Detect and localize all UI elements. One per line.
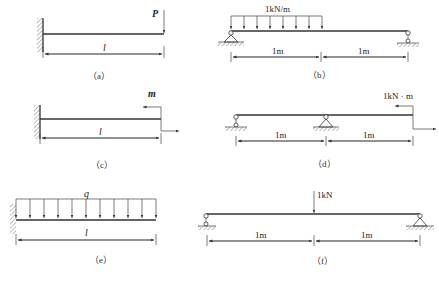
span-right-label: 1m bbox=[361, 230, 373, 240]
length-label: l bbox=[85, 227, 88, 238]
figure-c: m l （c） bbox=[34, 88, 179, 170]
load-label: 1kN bbox=[317, 190, 333, 200]
load-label: q bbox=[84, 188, 89, 199]
caption-d: （d） bbox=[313, 159, 336, 169]
figure-f: 1kN 1m 1m （f） bbox=[198, 190, 434, 266]
load-label: P bbox=[152, 8, 159, 19]
figure-d: 1kN · m 1m 1m （d） bbox=[225, 91, 436, 169]
figure-e: q l （e） bbox=[10, 188, 156, 265]
roller-support-icon bbox=[198, 214, 216, 230]
fixed-support-icon bbox=[37, 18, 43, 52]
caption-e: （e） bbox=[90, 255, 112, 265]
caption-b: （b） bbox=[308, 70, 331, 80]
roller-support-icon bbox=[225, 115, 247, 131]
pin-support-icon bbox=[218, 31, 244, 46]
pin-support-icon bbox=[313, 115, 339, 131]
moment-label: 1kN · m bbox=[383, 91, 413, 101]
caption-f: （f） bbox=[312, 256, 333, 266]
moment-arrow-icon bbox=[395, 106, 436, 129]
load-label: 1kN/m bbox=[265, 4, 290, 14]
caption-c: （c） bbox=[91, 160, 113, 170]
span-left-label: 1m bbox=[272, 46, 284, 56]
length-label: l bbox=[103, 42, 106, 53]
beam-diagrams: P l （a） 1kN/m bbox=[0, 0, 439, 284]
roller-support-icon bbox=[397, 31, 419, 47]
distributed-load-arrows-icon bbox=[16, 199, 156, 218]
caption-a: （a） bbox=[88, 71, 110, 81]
moment-label: m bbox=[148, 88, 156, 99]
length-label: l bbox=[99, 126, 102, 137]
span-left-label: 1m bbox=[255, 230, 267, 240]
span-right-label: 1m bbox=[358, 46, 370, 56]
span-left-label: 1m bbox=[275, 130, 287, 140]
figure-b: 1kN/m 1m 1m （b） bbox=[218, 4, 419, 80]
distributed-load-arrows-icon bbox=[231, 16, 322, 29]
fixed-support-icon bbox=[10, 204, 16, 234]
span-right-label: 1m bbox=[363, 130, 375, 140]
pin-support-icon bbox=[406, 214, 434, 230]
figure-a: P l （a） bbox=[37, 8, 164, 81]
fixed-support-icon bbox=[34, 105, 40, 139]
